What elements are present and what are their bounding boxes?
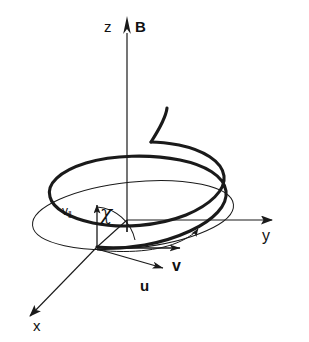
axis-x	[30, 247, 97, 316]
vector-label-v: v	[172, 258, 181, 274]
particle-helix	[49, 108, 226, 248]
pitch-angle-label-chi: χ	[100, 203, 112, 223]
v-parallel-subscript: ‖	[68, 210, 71, 220]
vector-label-v-parallel: v‖	[62, 205, 71, 220]
axis-label-y: y	[262, 228, 270, 244]
magnetic-field-label-B: B	[135, 19, 146, 34]
axis-label-x: x	[33, 318, 41, 333]
diagram-canvas	[0, 0, 309, 342]
magnetic-field-arrowhead	[123, 16, 131, 34]
axis-z	[123, 16, 131, 232]
axis-label-z: z	[104, 19, 112, 34]
vector-label-u: u	[140, 278, 149, 293]
physics-diagram-figure: z B y x v‖ χ v u	[0, 0, 309, 342]
